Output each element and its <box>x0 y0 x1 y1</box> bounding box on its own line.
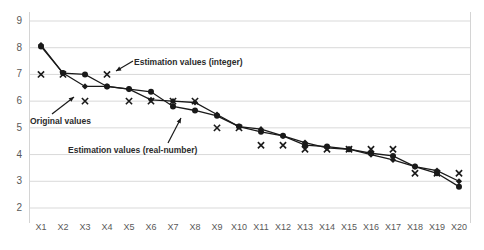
annotation-estimation-real: Estimation values (real-number) <box>68 145 197 155</box>
annotation-arrow <box>52 97 74 114</box>
chart-root: 98765432 X1X2X3X4X5X6X7X8X9X10X11X12X13X… <box>0 0 484 250</box>
annotation-estimation-integer: Estimation values (integer) <box>134 57 243 67</box>
annotation-arrow <box>168 118 181 143</box>
annotation-arrow <box>116 61 133 71</box>
annotation-original-values: Original values <box>30 116 91 126</box>
